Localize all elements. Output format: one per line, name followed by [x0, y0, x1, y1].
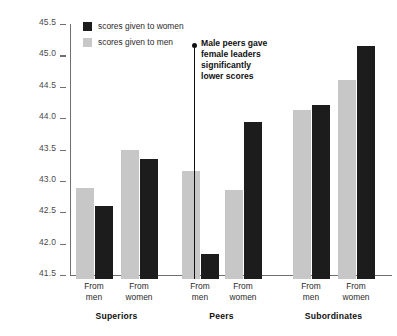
- bar-chart: 45.545.044.544.043.543.042.542.041.5 Fro…: [0, 0, 397, 336]
- bar-women: [244, 122, 262, 279]
- x-axis-group-label: Superiors: [62, 311, 172, 321]
- y-tick-mark: [60, 55, 66, 56]
- bar-men: [293, 110, 311, 279]
- y-tick-label: 44.0: [39, 111, 56, 121]
- bar-men: [182, 171, 200, 279]
- y-tick-mark: [60, 24, 66, 25]
- y-tick-label: 43.0: [39, 174, 56, 184]
- y-tick-label: 42.0: [39, 237, 56, 247]
- bar-women: [95, 206, 113, 279]
- legend: scores given to women scores given to me…: [83, 20, 184, 52]
- bar-women: [201, 254, 219, 279]
- x-axis-pair-label: From women: [213, 281, 273, 302]
- legend-item-women: scores given to women: [83, 20, 184, 32]
- x-axis-group-label: Peers: [167, 311, 277, 321]
- y-tick-mark: [60, 150, 66, 151]
- y-tick-mark: [60, 181, 66, 182]
- y-tick-mark: [60, 275, 66, 276]
- bar-men: [338, 80, 356, 279]
- y-tick-label: 44.5: [39, 80, 56, 90]
- y-tick-label: 43.5: [39, 143, 56, 153]
- annotation-text: Male peers gave female leaders significa…: [201, 38, 309, 82]
- annotation-pointer-line: [194, 46, 195, 279]
- y-tick-mark: [60, 244, 66, 245]
- bar-women: [357, 46, 375, 279]
- legend-swatch-women-icon: [83, 22, 92, 31]
- legend-label-men: scores given to men: [98, 37, 173, 47]
- y-tick-label: 45.0: [39, 48, 56, 58]
- x-axis-pair-label: From women: [109, 281, 169, 302]
- legend-label-women: scores given to women: [98, 21, 184, 31]
- y-tick-mark: [60, 118, 66, 119]
- y-tick-mark: [60, 87, 66, 88]
- x-axis-group-label: Subordinates: [279, 311, 389, 321]
- y-tick-label: 45.5: [39, 17, 56, 27]
- legend-swatch-men-icon: [83, 38, 92, 47]
- legend-item-men: scores given to men: [83, 36, 184, 48]
- y-tick-label: 41.5: [39, 268, 56, 278]
- bar-men: [121, 150, 139, 279]
- bar-women: [140, 159, 158, 279]
- bar-men: [225, 190, 243, 279]
- y-tick-mark: [60, 212, 66, 213]
- bar-women: [312, 105, 330, 279]
- bar-men: [76, 188, 94, 279]
- x-axis-pair-label: From women: [326, 281, 386, 302]
- y-tick-label: 42.5: [39, 205, 56, 215]
